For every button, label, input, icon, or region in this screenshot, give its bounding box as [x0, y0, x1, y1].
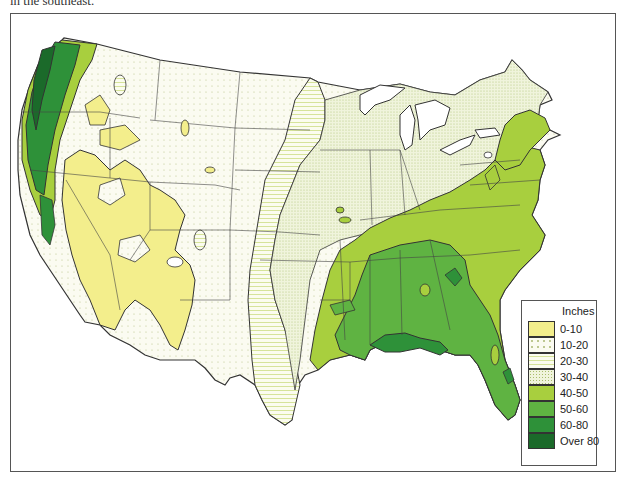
legend-item-30-40: 30-40	[528, 369, 594, 385]
swatch-20-30	[528, 353, 555, 369]
map-legend: Inches 0-10 10-20 20-30 30-40 40-50 50-6…	[521, 300, 597, 466]
legend-item-60-80: 60-80	[528, 417, 594, 433]
legend-label: 0-10	[560, 323, 582, 335]
legend-item-50-60: 50-60	[528, 401, 594, 417]
swatch-10-20	[528, 337, 555, 353]
legend-item-over-80: Over 80	[528, 433, 594, 449]
legend-title: Inches	[562, 305, 594, 317]
legend-label: Over 80	[560, 435, 599, 447]
swatch-0-10	[528, 321, 555, 337]
swatch-over-80	[528, 433, 555, 449]
legend-label: 40-50	[560, 387, 588, 399]
swatch-50-60	[528, 401, 555, 417]
legend-label: 20-30	[560, 355, 588, 367]
legend-item-40-50: 40-50	[528, 385, 594, 401]
legend-label: 60-80	[560, 419, 588, 431]
swatch-30-40	[528, 369, 555, 385]
legend-item-0-10: 0-10	[528, 321, 594, 337]
legend-item-20-30: 20-30	[528, 353, 594, 369]
legend-label: 10-20	[560, 339, 588, 351]
legend-item-10-20: 10-20	[528, 337, 594, 353]
swatch-60-80	[528, 417, 555, 433]
swatch-40-50	[528, 385, 555, 401]
legend-label: 30-40	[560, 371, 588, 383]
legend-label: 50-60	[560, 403, 588, 415]
